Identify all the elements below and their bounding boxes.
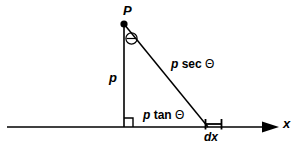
hypotenuse-label: p sec Θ <box>171 58 214 70</box>
x-axis-label: x <box>283 117 290 130</box>
base-label: p tan Θ <box>143 109 184 121</box>
apex-point-label: P <box>123 4 132 17</box>
geometry-diagram-svg <box>0 0 298 152</box>
apex-point-dot <box>120 20 127 27</box>
dx-label: dx <box>204 131 218 143</box>
x-axis-arrowhead <box>262 122 279 133</box>
hypotenuse-theta-icon: Θ <box>205 57 214 71</box>
base-theta-icon: Θ <box>175 108 184 122</box>
right-angle-marker <box>124 118 133 127</box>
vertical-leg-label: p <box>109 71 117 84</box>
hypotenuse-function: sec <box>182 57 202 71</box>
theta-angle-marker-icon <box>126 33 137 44</box>
base-function: tan <box>154 108 172 122</box>
figure-canvas: P p p sec Θ p tan Θ dx x <box>0 0 298 152</box>
